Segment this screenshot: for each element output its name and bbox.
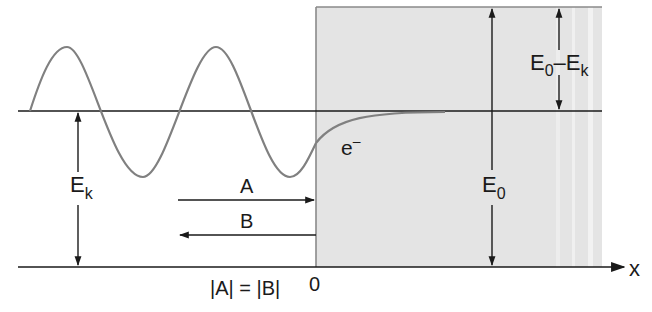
x-axis-label: x	[629, 256, 640, 281]
kinetic-energy-label: Ek	[70, 172, 94, 202]
reflected-amplitude-label: B	[240, 210, 253, 232]
amplitude-relation-label: |A| = |B|	[210, 277, 280, 299]
incident-amplitude-label: A	[240, 175, 254, 197]
potential-step-diagram: x e– Ek E0 E0–Ek A B |A| = |B| 0	[0, 0, 652, 312]
incident-wave-curve	[30, 47, 316, 177]
barrier-sheen-3	[588, 7, 593, 267]
barrier-sheen-2	[572, 7, 575, 267]
origin-label: 0	[309, 273, 320, 295]
